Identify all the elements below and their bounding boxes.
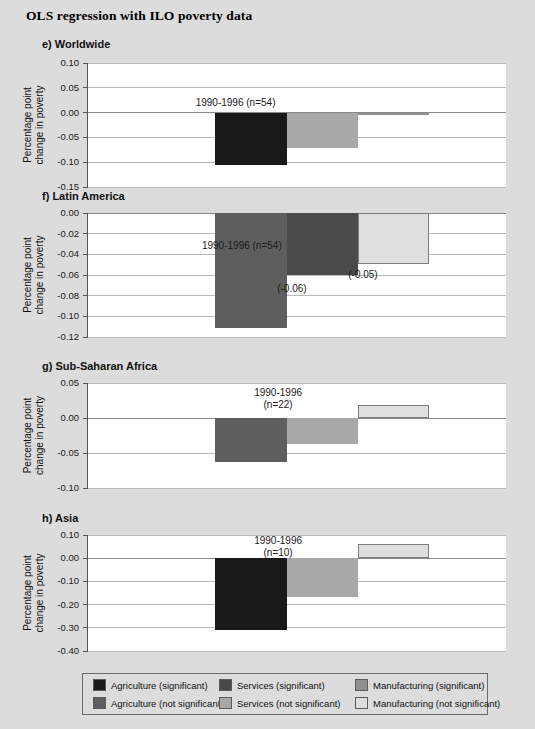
y-tick-mark (83, 187, 88, 188)
annotation-period-g: 1990-1996(n=22) (254, 387, 302, 411)
y-tick-label: -0.10 (39, 575, 79, 586)
y-tick-label: -0.10 (39, 482, 79, 493)
bar-g-agriculture (215, 418, 286, 462)
y-tick-mark (83, 604, 88, 605)
gridline (88, 383, 506, 384)
y-tick-mark (83, 316, 88, 317)
figure-title: OLS regression with ILO poverty data (26, 8, 252, 24)
y-tick-mark (83, 112, 88, 113)
legend-item: Manufacturing (significant) (355, 679, 484, 691)
panel-title-h: h) Asia (42, 512, 78, 524)
y-axis-label-g: Percentage pointchange in poverty (22, 383, 46, 488)
gridline (88, 604, 506, 605)
gridline (88, 162, 506, 163)
bar-h-agriculture (215, 558, 286, 629)
y-tick-mark (83, 453, 88, 454)
y-tick-mark (83, 418, 88, 419)
legend-swatch-icon (93, 697, 106, 709)
gridline (88, 63, 506, 64)
y-tick-label: -0.08 (39, 290, 79, 301)
y-tick-mark (83, 137, 88, 138)
bar-g-manufacturing (358, 405, 429, 418)
y-tick-mark (83, 213, 88, 214)
y-tick-mark (83, 627, 88, 628)
legend-item: Agriculture (significant) (93, 679, 208, 691)
annotation-value-f-0: (-0.06) (277, 283, 306, 295)
y-tick-mark (83, 87, 88, 88)
y-tick-label: 0.00 (39, 207, 79, 218)
legend-swatch-icon (219, 697, 232, 709)
y-tick-mark (83, 383, 88, 384)
y-tick-mark (83, 581, 88, 582)
y-tick-label: -0.06 (39, 269, 79, 280)
panel-title-e: e) Worldwide (42, 38, 110, 50)
y-tick-mark (83, 254, 88, 255)
gridline (88, 453, 506, 454)
bar-f-manufacturing (358, 213, 429, 264)
y-tick-label: -0.05 (39, 131, 79, 142)
legend-label: Agriculture (significant) (111, 680, 208, 691)
y-tick-mark (83, 233, 88, 234)
y-tick-label: -0.12 (39, 331, 79, 342)
bar-e-manufacturing (358, 113, 429, 115)
y-tick-label: -0.02 (39, 228, 79, 239)
y-tick-label: -0.10 (39, 310, 79, 321)
bar-h-services (287, 558, 358, 597)
gridline (88, 316, 506, 317)
legend-label: Agriculture (not significant) (111, 698, 223, 709)
plot-area-f (87, 213, 506, 338)
y-tick-mark (83, 651, 88, 652)
y-tick-label: -0.10 (39, 156, 79, 167)
panel-title-g: g) Sub-Saharan Africa (42, 360, 157, 372)
legend-item: Services (not significant) (219, 697, 340, 709)
legend: Agriculture (significant)Services (signi… (82, 673, 488, 715)
legend-item: Agriculture (not significant) (93, 697, 223, 709)
y-tick-mark (83, 295, 88, 296)
y-tick-mark (83, 63, 88, 64)
y-tick-label: 0.10 (39, 529, 79, 540)
legend-item: Services (significant) (219, 679, 325, 691)
plot-area-e (87, 63, 506, 188)
bar-f-services (287, 213, 358, 275)
y-tick-mark (83, 337, 88, 338)
y-tick-mark (83, 558, 88, 559)
bar-h-manufacturing (358, 544, 429, 558)
gridline (88, 295, 506, 296)
y-tick-label: 0.00 (39, 412, 79, 423)
y-tick-label: 0.00 (39, 107, 79, 118)
panel-title-f: f) Latin America (42, 190, 125, 202)
legend-item: Manufacturing (not significant) (355, 697, 500, 709)
legend-label: Services (not significant) (237, 698, 340, 709)
y-tick-label: 0.10 (39, 57, 79, 68)
bar-e-services (287, 113, 358, 148)
gridline (88, 187, 506, 188)
gridline (88, 87, 506, 88)
legend-label: Manufacturing (not significant) (373, 698, 500, 709)
y-tick-label: -0.05 (39, 447, 79, 458)
y-tick-label: 0.05 (39, 82, 79, 93)
gridline (88, 488, 506, 489)
y-tick-label: -0.30 (39, 622, 79, 633)
y-tick-mark (83, 488, 88, 489)
legend-label: Services (significant) (237, 680, 325, 691)
legend-swatch-icon (355, 679, 368, 691)
bar-f-agriculture (215, 213, 286, 328)
figure-root: OLS regression with ILO poverty data e) … (0, 0, 535, 729)
y-tick-label: -0.40 (39, 645, 79, 656)
legend-swatch-icon (355, 697, 368, 709)
legend-swatch-icon (219, 679, 232, 691)
annotation-value-f-1: (-0.05) (348, 269, 377, 281)
annotation-period-h: 1990-1996(n=10) (254, 535, 302, 559)
legend-swatch-icon (93, 679, 106, 691)
annotation-period-f: 1990-1996 (n=54) (202, 240, 282, 252)
y-tick-mark (83, 275, 88, 276)
gridline (88, 627, 506, 628)
y-tick-label: -0.04 (39, 248, 79, 259)
y-tick-mark (83, 535, 88, 536)
gridline (88, 337, 506, 338)
y-tick-label: 0.05 (39, 377, 79, 388)
y-tick-mark (83, 162, 88, 163)
y-tick-label: -0.20 (39, 599, 79, 610)
annotation-period-e: 1990-1996 (n=54) (196, 97, 276, 109)
legend-label: Manufacturing (significant) (373, 680, 484, 691)
